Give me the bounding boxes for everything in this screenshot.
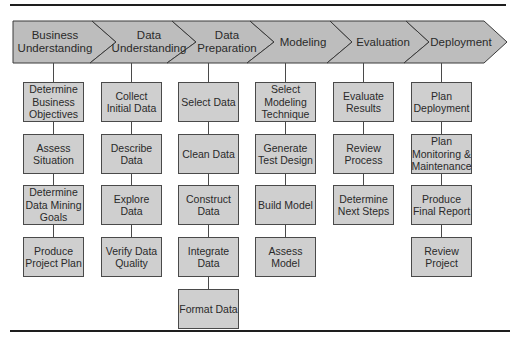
connector-line <box>131 225 132 237</box>
connector-line <box>208 225 209 237</box>
connector-line <box>285 225 286 237</box>
phase-label-deployment: Deployment <box>424 21 498 63</box>
connector-line <box>53 174 54 185</box>
connector-line <box>285 63 286 82</box>
task-box: Determine Data Mining Goals <box>23 185 84 225</box>
phase-label-data-preparation: Data Preparation <box>192 21 262 63</box>
bottom-rule <box>10 330 510 332</box>
task-box: Integrate Data <box>178 237 239 277</box>
connector-line <box>441 63 442 82</box>
task-box: Construct Data <box>178 185 239 225</box>
connector-line <box>441 225 442 237</box>
phase-label-data-understanding: Data Understanding <box>110 21 188 63</box>
connector-line <box>363 174 364 185</box>
connector-line <box>208 122 209 134</box>
task-box: Build Model <box>255 185 316 225</box>
task-box: Plan Monitoring & Maintenance <box>411 134 472 174</box>
phase-label-evaluation: Evaluation <box>346 21 420 63</box>
connector-line <box>363 63 364 82</box>
connector-line <box>131 122 132 134</box>
task-box: Describe Data <box>101 134 162 174</box>
task-box: Generate Test Design <box>255 134 316 174</box>
task-box: Explore Data <box>101 185 162 225</box>
connector-line <box>53 225 54 237</box>
connector-line <box>208 277 209 289</box>
connector-line <box>285 122 286 134</box>
connector-line <box>53 63 54 82</box>
connector-line <box>285 174 286 185</box>
task-box: Review Project <box>411 237 472 277</box>
connector-line <box>53 122 54 134</box>
task-box: Select Data <box>178 82 239 122</box>
task-box: Format Data <box>178 289 239 329</box>
task-box: Produce Final Report <box>411 185 472 225</box>
connector-line <box>441 174 442 185</box>
task-box: Determine Business Objectives <box>23 82 84 122</box>
phase-label-modeling: Modeling <box>268 21 338 63</box>
task-box: Assess Situation <box>23 134 84 174</box>
phase-label-business-understanding: Business Understanding <box>16 21 94 63</box>
task-box: Review Process <box>333 134 394 174</box>
task-box: Produce Project Plan <box>23 237 84 277</box>
connector-line <box>208 63 209 82</box>
task-box: Determine Next Steps <box>333 185 394 225</box>
connector-line <box>363 122 364 134</box>
connector-line <box>131 174 132 185</box>
task-box: Assess Model <box>255 237 316 277</box>
task-box: Collect Initial Data <box>101 82 162 122</box>
task-box: Clean Data <box>178 134 239 174</box>
connector-line <box>441 122 442 134</box>
task-box: Select Modeling Technique <box>255 82 316 122</box>
task-box: Evaluate Results <box>333 82 394 122</box>
connector-line <box>208 174 209 185</box>
task-box: Verify Data Quality <box>101 237 162 277</box>
connector-line <box>131 63 132 82</box>
task-box: Plan Deployment <box>411 82 472 122</box>
